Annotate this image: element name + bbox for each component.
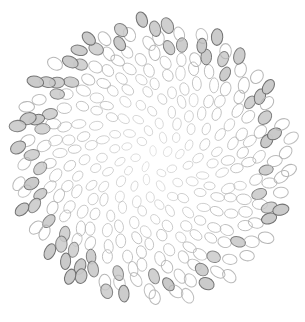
artboard: Phyllotaxis Ellipse Field xyxy=(0,0,305,322)
ellipse-marker xyxy=(9,120,26,132)
ellipse-marker xyxy=(211,28,223,45)
ellipse-marker xyxy=(55,236,67,253)
phyllotaxis-scatter-plot: Phyllotaxis Ellipse Field xyxy=(0,0,305,322)
